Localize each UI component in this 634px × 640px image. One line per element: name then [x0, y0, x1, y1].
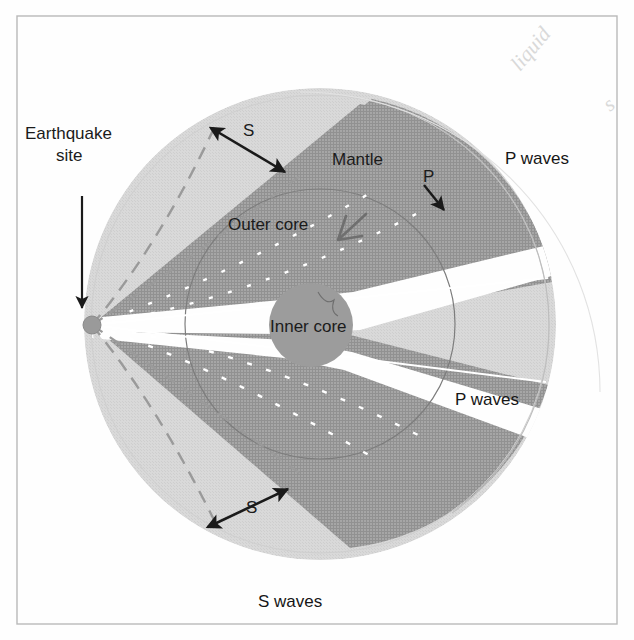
earthquake-site-label-line2: site — [56, 146, 82, 165]
seismic-cross-section-diagram: Earthquake site Mantle Outer core Inner … — [0, 0, 634, 640]
inner-core-label: Inner core — [270, 317, 347, 336]
outer-core-label: Outer core — [228, 215, 308, 234]
p-arrow-label: P — [423, 167, 434, 186]
s-arrow-lower-label: S — [246, 498, 257, 517]
earthquake-site-marker — [83, 316, 101, 334]
figure-root: Earthquake site Mantle Outer core Inner … — [0, 0, 634, 640]
p-waves-lower-label: P waves — [455, 390, 519, 409]
earthquake-site-label-line1: Earthquake — [25, 124, 112, 143]
s-arrow-upper-label: S — [243, 121, 254, 140]
s-waves-label: S waves — [258, 592, 322, 611]
p-waves-upper-label: P waves — [505, 149, 569, 168]
mantle-label: Mantle — [332, 150, 383, 169]
